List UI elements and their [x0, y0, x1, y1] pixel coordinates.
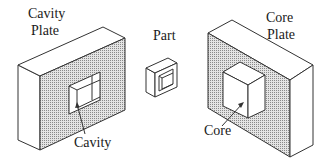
- label-cavity-plate-line2: Plate: [31, 23, 59, 38]
- cavity-plate-side-face: [18, 65, 40, 150]
- cavity-plate: [18, 27, 125, 150]
- label-core-plate-line1: Core: [266, 10, 293, 25]
- part: [146, 58, 177, 97]
- label-core: Core: [204, 123, 231, 138]
- label-part: Part: [153, 28, 176, 43]
- label-cavity-plate-line1: Cavity: [28, 6, 65, 21]
- label-cavity: Cavity: [74, 135, 111, 150]
- label-core-plate-line2: Plate: [267, 27, 295, 42]
- mold-diagram: Cavity Plate Part Core Plate Cavity Core: [0, 0, 329, 163]
- core-plate-side-face: [290, 65, 313, 157]
